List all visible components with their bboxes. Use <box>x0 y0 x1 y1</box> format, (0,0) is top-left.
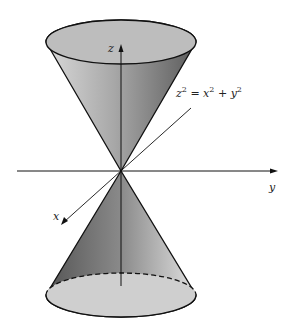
y-axis-arrow-icon <box>270 169 278 174</box>
z-axis-label: z <box>107 42 114 55</box>
x-axis-arrow-icon <box>61 217 68 225</box>
double-cone-diagram: z y x z2 = x2 + y2 <box>0 0 290 336</box>
y-axis-label: y <box>268 181 276 194</box>
x-axis-label: x <box>53 210 60 223</box>
cone-equation: z2 = x2 + y2 <box>175 85 242 100</box>
